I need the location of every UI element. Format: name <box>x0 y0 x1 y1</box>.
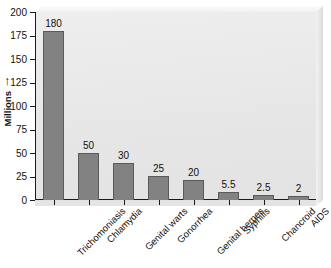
y-tick-150: 150 <box>30 59 35 60</box>
bar-slot: 25 <box>148 12 169 200</box>
y-tick-label: 150 <box>10 55 27 65</box>
bars-container: 180503025205.52.52 <box>36 12 316 200</box>
bar[interactable] <box>148 176 169 200</box>
bar[interactable] <box>78 153 99 200</box>
y-tick-125: 125 <box>30 83 35 84</box>
x-tick <box>229 200 230 205</box>
y-tick-label: 125 <box>10 78 27 88</box>
panel-bevel-right-edge <box>316 6 323 206</box>
bar-slot: 30 <box>113 12 134 200</box>
y-tick-label: 75 <box>16 125 27 135</box>
y-tick-200: 200 <box>30 12 35 13</box>
bar-slot: 50 <box>78 12 99 200</box>
y-tick-label: 175 <box>10 31 27 41</box>
bar-value-label: 2 <box>278 184 319 194</box>
y-tick-100: 100 <box>30 106 35 107</box>
x-tick <box>194 200 195 205</box>
x-tick <box>159 200 160 205</box>
x-tick <box>54 200 55 205</box>
y-tick-label: 50 <box>16 149 27 159</box>
bar-value-label: 20 <box>173 168 214 178</box>
y-tick-label: 100 <box>10 102 27 112</box>
bar-slot: 5.5 <box>218 12 239 200</box>
bar-slot: 180 <box>43 12 64 200</box>
bar-value-label: 30 <box>103 151 144 161</box>
bar[interactable] <box>43 31 64 200</box>
y-tick-label: 0 <box>21 196 27 206</box>
bar[interactable] <box>183 180 204 200</box>
y-tick-50: 50 <box>30 153 35 154</box>
y-tick-25: 25 <box>30 177 35 178</box>
y-tick-75: 75 <box>30 130 35 131</box>
x-axis-category-labels: TrichomoniasisChlamydiaGenital wartsGono… <box>0 206 327 268</box>
bar-slot: 20 <box>183 12 204 200</box>
x-tick <box>124 200 125 205</box>
bar[interactable] <box>113 163 134 200</box>
x-tick <box>299 200 300 205</box>
bar-value-label: 50 <box>68 141 109 151</box>
y-tick-label: 200 <box>10 8 27 18</box>
y-tick-0: 0 <box>30 200 35 201</box>
x-tick <box>89 200 90 205</box>
bar-slot: 2 <box>288 12 309 200</box>
bar-value-label: 180 <box>33 19 74 29</box>
plot-area: 0255075100125150175200 180503025205.52.5… <box>35 12 316 200</box>
bar-slot: 2.5 <box>253 12 274 200</box>
y-tick-175: 175 <box>30 36 35 37</box>
y-tick-label: 25 <box>16 172 27 182</box>
bar[interactable] <box>218 192 239 200</box>
